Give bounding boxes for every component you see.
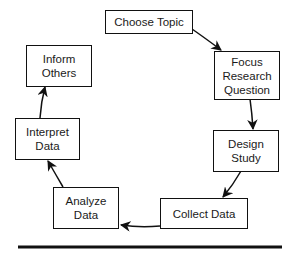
node-collect-data: Collect Data	[160, 198, 248, 229]
node-interpret-data: Interpret Data	[15, 118, 80, 160]
arrow-collect-to-analyze	[121, 225, 160, 227]
arrow-interpret-to-inform	[40, 87, 45, 118]
node-label-line1: Design	[228, 137, 264, 151]
arrow-design-to-collect	[223, 171, 241, 197]
node-choose-topic: Choose Topic	[105, 10, 193, 34]
node-label-line1: Analyze	[66, 194, 107, 208]
node-label-line1: Interpret	[26, 125, 69, 139]
research-cycle-diagram: Choose Topic Focus Research Question Des…	[0, 0, 294, 256]
node-focus-research-question: Focus Research Question	[214, 51, 280, 100]
node-label: Collect Data	[173, 207, 236, 221]
node-label-line1: Focus	[231, 55, 262, 69]
node-label-line2: Data	[35, 139, 59, 153]
node-label-line2: Data	[74, 208, 98, 222]
arrow-analyze-to-interpret	[48, 161, 63, 187]
arrow-choose-to-focus	[192, 29, 221, 50]
node-label-line1: Inform	[43, 52, 76, 66]
node-label-line2: Study	[231, 151, 260, 165]
node-label-line2: Others	[42, 66, 77, 80]
node-label: Choose Topic	[114, 15, 183, 29]
node-analyze-data: Analyze Data	[53, 187, 119, 229]
node-design-study: Design Study	[213, 130, 279, 172]
node-inform-others: Inform Others	[26, 45, 92, 87]
node-label-line2: Research	[222, 69, 271, 83]
arrow-focus-to-design	[250, 99, 253, 129]
node-label-line3: Question	[224, 83, 270, 97]
